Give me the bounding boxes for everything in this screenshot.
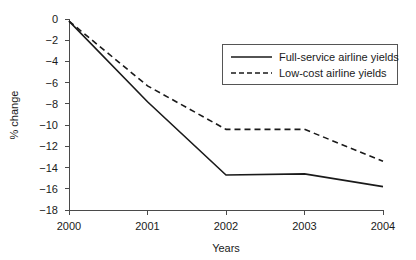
legend-label-full-service: Full-service airline yields bbox=[279, 51, 399, 63]
legend: Full-service airline yields Low-cost air… bbox=[223, 45, 400, 85]
y-tick-label: −6 bbox=[45, 77, 58, 89]
y-tick-label: −18 bbox=[39, 204, 58, 216]
y-tick-label: −10 bbox=[39, 119, 58, 131]
y-tick-label: −12 bbox=[39, 140, 58, 152]
x-tick-label: 2003 bbox=[292, 220, 316, 232]
y-tick-label: 0 bbox=[52, 13, 58, 25]
y-tick-label: −4 bbox=[45, 55, 58, 67]
y-axis-title: % change bbox=[8, 91, 20, 140]
y-tick-label: −8 bbox=[45, 98, 58, 110]
x-axis-tick-labels: 20002001200220032004 bbox=[57, 220, 395, 232]
x-tick-label: 2001 bbox=[135, 220, 159, 232]
y-tick-label: −16 bbox=[39, 183, 58, 195]
y-axis-tick-marks bbox=[65, 19, 69, 210]
x-axis-title: Years bbox=[212, 242, 240, 254]
y-axis-tick-labels: 0−2−4−6−8−10−12−14−16−18 bbox=[39, 13, 58, 216]
chart-container: 0−2−4−6−8−10−12−14−16−18 200020012002200… bbox=[0, 0, 416, 260]
x-tick-label: 2000 bbox=[57, 220, 81, 232]
line-chart: 0−2−4−6−8−10−12−14−16−18 200020012002200… bbox=[0, 0, 416, 260]
x-tick-label: 2002 bbox=[214, 220, 238, 232]
legend-label-low-cost: Low-cost airline yields bbox=[279, 67, 387, 79]
x-axis-tick-marks bbox=[69, 210, 383, 215]
y-tick-label: −2 bbox=[45, 34, 58, 46]
x-tick-label: 2004 bbox=[371, 220, 395, 232]
y-tick-label: −14 bbox=[39, 162, 58, 174]
series-line-low-cost bbox=[69, 21, 383, 161]
